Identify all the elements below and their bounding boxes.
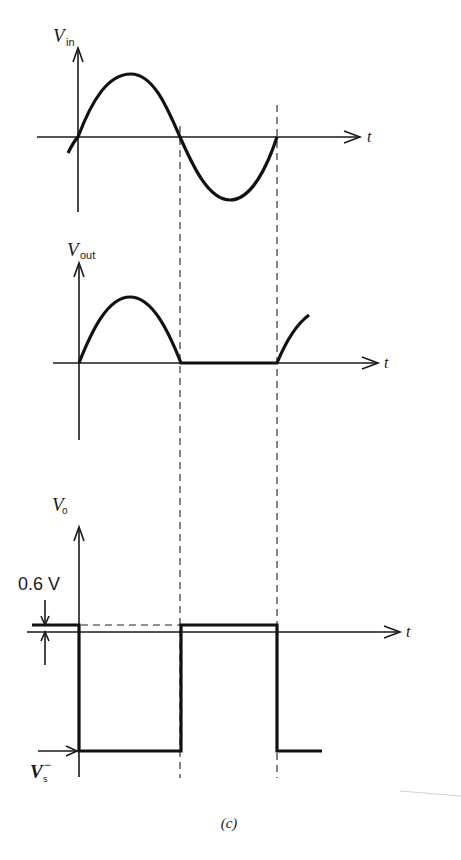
dashed-guides [180, 105, 277, 778]
rectifier-waveform-diagram: V in t V out t V o 0.6 V t [0, 0, 461, 860]
low-level-label-main: V [30, 761, 44, 782]
panel-vin: V in t [37, 25, 372, 212]
vout-rectified-wave [79, 297, 309, 363]
vout-label-sub: out [80, 249, 95, 261]
vo-label-sub: o [62, 505, 68, 516]
vo-square-wave [32, 625, 322, 751]
vin-label-main: V [53, 25, 67, 46]
vin-t-label: t [367, 128, 372, 145]
low-level-label-sub: s [43, 774, 48, 784]
figure-caption: (c) [221, 815, 238, 832]
vout-label-main: V [67, 239, 81, 260]
vout-t-label: t [384, 354, 389, 371]
vo-t-label: t [406, 623, 411, 640]
low-level-label-sup: − [44, 758, 51, 772]
panel-vout: V out t [53, 239, 389, 440]
vin-label-sub: in [66, 36, 75, 48]
scan-artifact-line [400, 791, 461, 796]
high-level-label: 0.6 V [18, 574, 60, 594]
panel-vo: V o 0.6 V t V s − [18, 494, 411, 784]
